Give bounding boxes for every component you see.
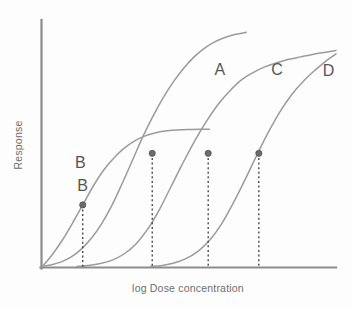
curve-label-d: D [323,62,335,79]
curves-group [42,32,336,266]
curve-b [42,129,209,266]
marker-point-B [80,202,86,208]
chart-plot-area: ABCD B log Dose concentration Response [0,0,353,309]
dose-response-chart: ABCD B log Dose concentration Response [0,0,353,309]
curve-label-b: B [75,154,86,171]
y-axis-title: Response [12,121,24,170]
curve-label-c: C [271,61,283,78]
curve-d [150,54,336,267]
x-axis-title: log Dose concentration [132,282,244,294]
point-labels-group: B [77,177,88,194]
curve-c [77,50,336,266]
point-label-b: B [77,177,88,194]
curve-labels-group: ABCD [75,61,335,171]
marker-point-ec50-c [256,150,262,156]
curve-label-a: A [215,61,226,78]
marker-point-ec50-a [149,150,155,156]
axes-group [41,20,337,269]
marker-point-ec50-b [205,150,211,156]
